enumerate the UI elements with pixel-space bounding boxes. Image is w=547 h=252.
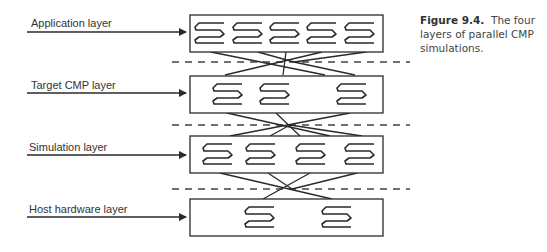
layer-diagram — [0, 0, 547, 252]
layer-box-host-hardware — [190, 199, 383, 236]
label-arrows — [27, 32, 186, 217]
layer-box-simulation — [190, 136, 383, 173]
layer-box-target-cmp — [190, 76, 383, 113]
layer-box-application — [190, 15, 383, 52]
